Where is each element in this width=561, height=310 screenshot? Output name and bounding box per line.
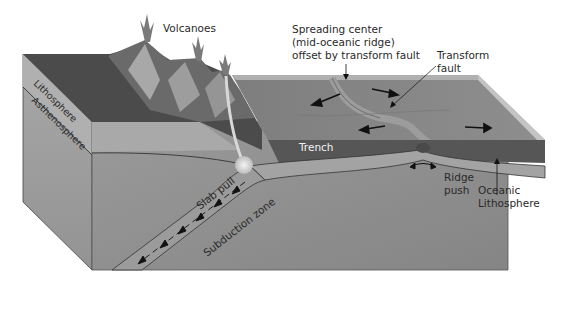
- label-spreading-center-1: Spreading center: [292, 23, 383, 35]
- ridge-crest: [416, 143, 430, 153]
- label-oceanic-lithosphere-1: Oceanic: [478, 184, 521, 196]
- label-ridge-push-1: Ridge: [444, 171, 474, 183]
- ocean-far-edge: [232, 75, 478, 80]
- label-ridge-push-2: push: [444, 184, 469, 196]
- label-volcanoes: Volcanoes: [163, 22, 216, 34]
- label-spreading-center-3: offset by transform fault: [292, 49, 420, 61]
- magma-chamber: [235, 156, 253, 174]
- tectonics-diagram: Volcanoes Spreading center (mid-oceanic …: [0, 0, 561, 310]
- volcano-plume-icon: [192, 36, 204, 62]
- label-transform-fault-1: Transform: [436, 49, 489, 61]
- ocean-top-surface: [232, 75, 545, 140]
- volcano-plume-icon: [140, 14, 154, 42]
- label-oceanic-lithosphere-2: Lithosphere: [478, 197, 540, 209]
- label-trench: Trench: [298, 141, 334, 153]
- label-transform-fault-2: fault: [437, 62, 461, 74]
- label-spreading-center-2: (mid-oceanic ridge): [292, 36, 395, 48]
